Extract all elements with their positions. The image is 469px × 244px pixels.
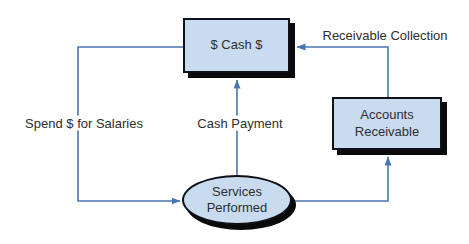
node-services-performed-label: Services Performed: [196, 184, 278, 217]
edge-services-to-receivable: [292, 157, 388, 201]
node-services-performed: Services Performed: [182, 175, 292, 225]
node-accounts-receivable-label: Accounts Receivable: [348, 107, 426, 140]
node-accounts-receivable: Accounts Receivable: [332, 97, 442, 150]
edge-label-receivable-collection: Receivable Collection: [319, 28, 450, 43]
edge-label-cash-payment: Cash Payment: [194, 116, 285, 131]
node-cash: $ Cash $: [183, 18, 290, 73]
edge-receivable-to-cash: [297, 47, 388, 97]
edge-label-spend-for-salaries: Spend $ for Salaries: [22, 116, 146, 131]
cash-flow-diagram: $ Cash $ Accounts Receivable Services Pe…: [0, 0, 469, 244]
node-cash-label: $ Cash $: [210, 37, 262, 53]
